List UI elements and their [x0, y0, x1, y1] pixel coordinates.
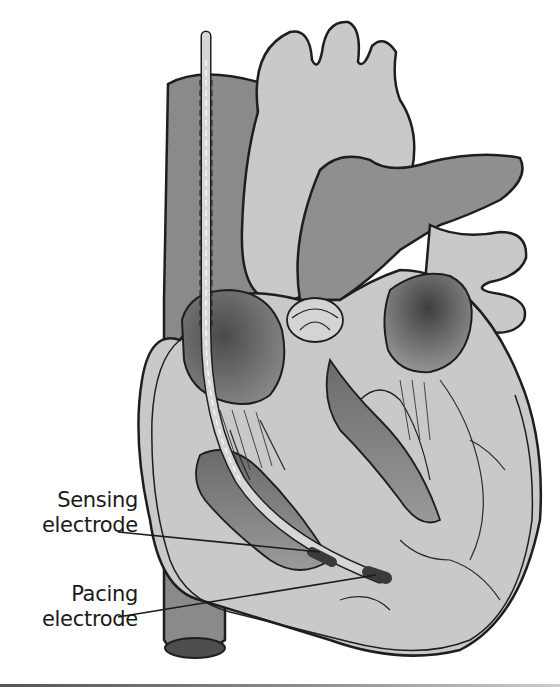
pacing-electrode	[368, 572, 386, 578]
pacing-label-line2: electrode	[18, 607, 138, 632]
right-atrium	[182, 290, 284, 404]
aortic-valve	[287, 298, 343, 342]
pacing-label-line1: Pacing	[18, 582, 138, 607]
sensing-label-line1: Sensing	[18, 488, 138, 513]
pacing-electrode-label: Pacing electrode	[18, 582, 138, 632]
sensing-electrode-label: Sensing electrode	[18, 488, 138, 538]
heart-diagram: Sensing electrode Pacing electrode	[0, 0, 560, 687]
sensing-label-line2: electrode	[18, 513, 138, 538]
